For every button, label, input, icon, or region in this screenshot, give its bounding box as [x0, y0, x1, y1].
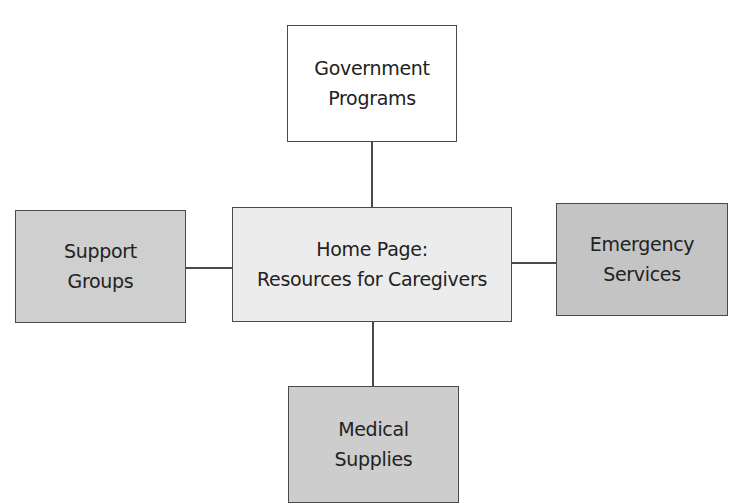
node-government-programs: Government Programs — [287, 25, 457, 142]
node-medical-supplies: Medical Supplies — [288, 386, 459, 503]
node-label-line: Emergency — [590, 230, 694, 259]
node-label-line: Home Page: — [316, 235, 428, 264]
node-label-line: Groups — [68, 267, 134, 296]
node-support-groups: Support Groups — [15, 210, 186, 323]
node-label-line: Government — [314, 54, 430, 83]
node-label-line: Supplies — [335, 445, 413, 474]
node-label-line: Support — [64, 237, 137, 266]
connector-home-support — [186, 267, 232, 269]
node-label-line: Resources for Caregivers — [257, 265, 487, 294]
connector-home-medical — [372, 322, 374, 388]
node-label-line: Services — [603, 260, 681, 289]
node-label-line: Medical — [338, 415, 409, 444]
connector-home-government — [371, 141, 373, 209]
node-emergency-services: Emergency Services — [556, 203, 728, 316]
connector-home-emergency — [512, 262, 556, 264]
node-home-page: Home Page: Resources for Caregivers — [232, 207, 512, 322]
node-label-line: Programs — [328, 84, 416, 113]
